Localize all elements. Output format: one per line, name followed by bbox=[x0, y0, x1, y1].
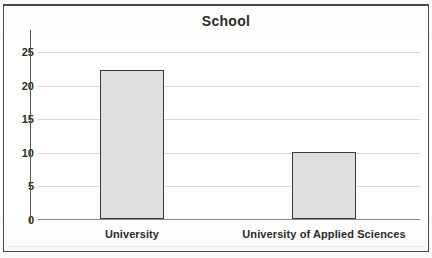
gridline-20 bbox=[38, 86, 420, 87]
gridline-10 bbox=[38, 153, 420, 154]
plot-area bbox=[38, 52, 420, 220]
gridline-5 bbox=[38, 186, 420, 187]
bar-university[interactable] bbox=[100, 70, 164, 219]
gridline-15 bbox=[38, 119, 420, 120]
gridline-25 bbox=[38, 52, 420, 53]
x-tick-label-university: University bbox=[105, 228, 159, 240]
scan-artifact-line bbox=[8, 246, 424, 247]
chart-title: School bbox=[0, 13, 432, 29]
x-tick-label-university-of-applied-sciences: University of Applied Sciences bbox=[242, 228, 405, 240]
chart-screenshot: School 25 20 15 10 5 0 University Univer… bbox=[0, 0, 432, 258]
bar-university-of-applied-sciences[interactable] bbox=[292, 152, 356, 219]
gridline-0-baseline bbox=[38, 219, 420, 220]
y-axis-line bbox=[30, 30, 31, 222]
